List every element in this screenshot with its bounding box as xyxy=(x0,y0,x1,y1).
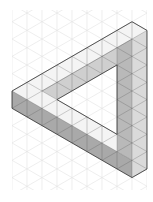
penrose-triangle-diagram xyxy=(0,0,153,202)
triangle-faces xyxy=(12,22,147,178)
right-bar-inner-face xyxy=(117,39,132,160)
